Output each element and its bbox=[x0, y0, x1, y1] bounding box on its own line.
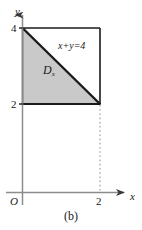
y-axis-label: y bbox=[15, 6, 20, 17]
region-label-letter: D bbox=[43, 63, 52, 77]
figure-caption: (b) bbox=[0, 209, 142, 224]
region-label-subscript: x bbox=[52, 70, 55, 78]
figure-container: y x 4 2 2 O Dx x+y=4 (b) bbox=[0, 0, 142, 230]
region-label: Dx bbox=[43, 64, 55, 76]
y-tick-label-4: 4 bbox=[11, 23, 17, 34]
x-axis-label: x bbox=[130, 191, 135, 202]
coordinate-plot bbox=[0, 0, 142, 230]
y-tick-label-2: 2 bbox=[11, 99, 17, 110]
origin-label: O bbox=[10, 196, 18, 207]
boundary-equation-label: x+y=4 bbox=[58, 41, 85, 51]
x-tick-label-2: 2 bbox=[96, 196, 102, 207]
